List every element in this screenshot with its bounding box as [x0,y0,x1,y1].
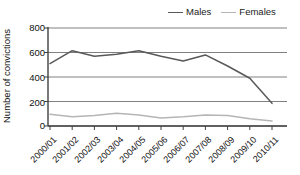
x-axis-tick-labels: 2000/012001/022002/032003/042004/052005/… [0,0,300,175]
chart-screenshot: Males Females Number of convictions 800 … [0,0,300,175]
